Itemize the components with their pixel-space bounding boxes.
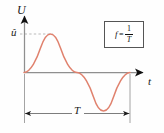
formula-numerator: 1: [126, 25, 132, 34]
formula-equals-sign: =: [119, 31, 124, 39]
y-axis-label: U: [17, 4, 26, 16]
formula-lhs: f: [115, 30, 118, 39]
waveform-figure: U t û T f = 1 T: [0, 0, 164, 133]
frequency-formula-box: f = 1 T: [104, 21, 144, 48]
waveform-plot: [0, 0, 164, 133]
formula-denominator: T: [126, 35, 132, 44]
frequency-formula: f = 1 T: [115, 25, 133, 44]
x-axis-label: t: [148, 76, 151, 87]
formula-fraction: 1 T: [125, 25, 133, 44]
period-label: T: [74, 105, 80, 116]
amplitude-label: û: [11, 27, 17, 38]
